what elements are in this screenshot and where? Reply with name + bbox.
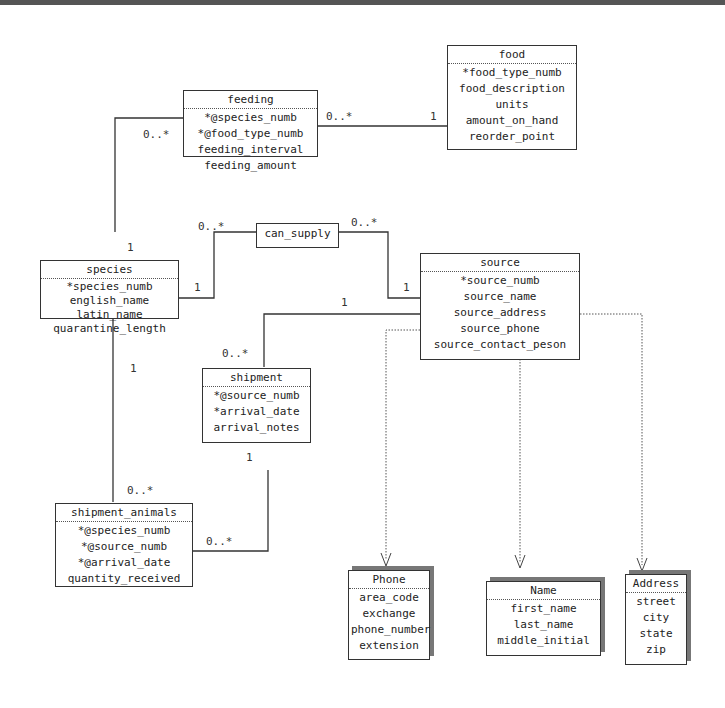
attribute: street bbox=[628, 594, 684, 610]
attribute: units bbox=[450, 97, 574, 113]
attribute: phone_number bbox=[351, 622, 427, 638]
attribute: source_name bbox=[423, 289, 577, 305]
link-source-shipment bbox=[264, 314, 420, 367]
multiplicity-label: 1 bbox=[403, 281, 410, 294]
class-title: can_supply bbox=[257, 224, 338, 244]
class-shipment-animals[interactable]: shipment_animals *@species_numb *@source… bbox=[55, 503, 193, 587]
attribute: *food_type_numb bbox=[450, 65, 574, 81]
multiplicity-label: 1 bbox=[194, 281, 201, 294]
attribute: *source_numb bbox=[423, 273, 577, 289]
attribute: middle_initial bbox=[489, 633, 598, 649]
multiplicity-label: 0..* bbox=[127, 484, 154, 497]
attribute: *@source_numb bbox=[205, 388, 308, 404]
class-source[interactable]: source *source_numb source_name source_a… bbox=[420, 253, 580, 360]
multiplicity-label: 0..* bbox=[351, 216, 378, 229]
class-name[interactable]: Name first_name last_name middle_initial bbox=[486, 581, 601, 656]
attribute: *@arrival_date bbox=[58, 555, 190, 571]
attribute: state bbox=[628, 626, 684, 642]
multiplicity-label: 1 bbox=[430, 110, 437, 123]
class-title: Address bbox=[626, 575, 686, 593]
attribute: zip bbox=[628, 642, 684, 658]
attribute: *species_numb bbox=[43, 280, 176, 294]
attribute: reorder_point bbox=[450, 129, 574, 145]
attribute: city bbox=[628, 610, 684, 626]
attribute: food_description bbox=[450, 81, 574, 97]
class-title: food bbox=[448, 46, 576, 64]
multiplicity-label: 0..* bbox=[198, 220, 225, 233]
class-title: Name bbox=[487, 582, 600, 600]
class-address[interactable]: Address street city state zip bbox=[625, 574, 687, 665]
attribute: *@source_numb bbox=[58, 539, 190, 555]
class-title: source bbox=[421, 254, 579, 272]
attribute: *@species_numb bbox=[186, 110, 315, 126]
attribute: source_address bbox=[423, 305, 577, 321]
class-can-supply[interactable]: can_supply bbox=[256, 223, 339, 248]
attribute: english_name bbox=[43, 294, 176, 308]
class-title: Phone bbox=[349, 571, 429, 589]
attribute: quantity_received bbox=[58, 571, 190, 587]
multiplicity-label: 0..* bbox=[143, 128, 170, 141]
link-species-cansupply bbox=[178, 232, 256, 298]
attribute: exchange bbox=[351, 606, 427, 622]
class-feeding[interactable]: feeding *@species_numb *@food_type_numb … bbox=[183, 90, 318, 157]
attribute: latin_name bbox=[43, 308, 176, 322]
attribute: arrival_notes bbox=[205, 420, 308, 436]
multiplicity-label: 1 bbox=[130, 362, 137, 375]
class-species[interactable]: species *species_numb english_name latin… bbox=[40, 260, 179, 319]
multiplicity-label: 0..* bbox=[206, 535, 233, 548]
attribute: feeding_amount bbox=[186, 158, 315, 174]
attribute: *arrival_date bbox=[205, 404, 308, 420]
multiplicity-label: 0..* bbox=[222, 347, 249, 360]
class-shipment[interactable]: shipment *@source_numb *arrival_date arr… bbox=[202, 368, 311, 443]
class-phone[interactable]: Phone area_code exchange phone_number ex… bbox=[348, 570, 430, 660]
class-title: feeding bbox=[184, 91, 317, 109]
class-title: species bbox=[41, 261, 178, 279]
attribute: amount_on_hand bbox=[450, 113, 574, 129]
attribute: last_name bbox=[489, 617, 598, 633]
attribute: area_code bbox=[351, 590, 427, 606]
multiplicity-label: 1 bbox=[246, 451, 253, 464]
attribute: feeding_interval bbox=[186, 142, 315, 158]
attribute: extension bbox=[351, 638, 427, 654]
class-food[interactable]: food *food_type_numb food_description un… bbox=[447, 45, 577, 150]
multiplicity-label: 0..* bbox=[326, 110, 353, 123]
class-title: shipment_animals bbox=[56, 504, 192, 522]
attribute: source_phone bbox=[423, 321, 577, 337]
link-source-phone bbox=[386, 330, 420, 560]
attribute: *@food_type_numb bbox=[186, 126, 315, 142]
attribute: source_contact_peson bbox=[423, 337, 577, 353]
attribute: quarantine_length bbox=[43, 322, 176, 336]
class-title: shipment bbox=[203, 369, 310, 387]
link-source-address bbox=[580, 314, 642, 565]
attribute: *@species_numb bbox=[58, 523, 190, 539]
multiplicity-label: 1 bbox=[127, 241, 134, 254]
multiplicity-label: 1 bbox=[341, 296, 348, 309]
attribute: first_name bbox=[489, 601, 598, 617]
